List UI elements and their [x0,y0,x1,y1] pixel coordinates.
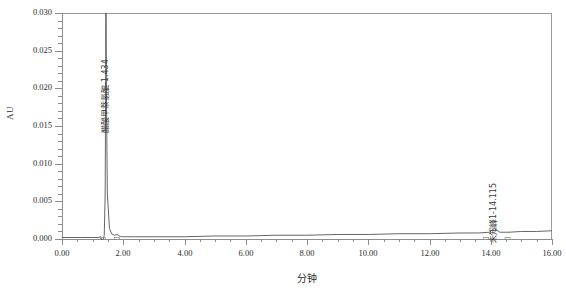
y-axis-tick [55,126,62,127]
chromatogram-chart: AU 分钟 0.0000.0050.0100.0150.0200.0250.03… [0,0,566,302]
y-axis-tick-label: 0.015 [0,120,52,130]
integration-marker [115,237,120,240]
y-axis-tick-label: 0.000 [0,233,52,243]
y-axis-tick-label: 0.010 [0,158,52,168]
peak-annotation-peak-2: 未知峰1-14.115 [487,183,498,243]
x-axis-tick-label: 2.00 [103,248,143,258]
integration-marker [505,237,510,240]
x-axis-tick-label: 4.00 [165,248,205,258]
y-axis-tick-label: 0.025 [0,45,52,55]
y-axis-tick [55,201,62,202]
x-axis-tick-label: 10.00 [348,248,388,258]
x-axis-title: 分钟 [297,270,317,285]
trace-path [62,13,552,240]
x-axis-tick-label: 6.00 [226,248,266,258]
y-axis-title: AU [5,106,15,120]
y-axis-tick [55,164,62,165]
x-axis-tick-label: 8.00 [287,248,327,258]
y-axis-tick [55,13,62,14]
y-axis-tick-label: 0.020 [0,82,52,92]
y-axis-tick-label: 0.030 [0,7,52,17]
x-axis-tick-label: 14.00 [471,248,511,258]
y-axis-tick-label: 0.005 [0,195,52,205]
y-axis-tick [55,239,62,240]
peak-annotation-peak-1: 醋酸甲萘氢醌-1.434 [99,59,110,133]
x-axis-tick-label: 12.00 [410,248,450,258]
chromatogram-trace [62,13,553,240]
y-axis-tick [55,88,62,89]
x-axis-tick-label: 16.00 [532,248,566,258]
y-axis-tick [55,51,62,52]
x-axis-tick-label: 0.00 [42,248,82,258]
